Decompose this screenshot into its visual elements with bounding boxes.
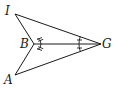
- point-label-B: B: [19, 37, 29, 51]
- point-label-G: G: [102, 37, 112, 51]
- point-label-A: A: [3, 73, 13, 87]
- geometry-diagram: I B G A: [0, 0, 118, 91]
- point-label-I: I: [4, 4, 10, 18]
